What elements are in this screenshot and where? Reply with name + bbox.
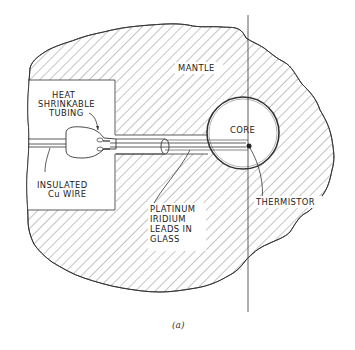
- label-platinum-1: PLATINUM: [150, 204, 195, 214]
- label-platinum-4: GLASS: [150, 234, 180, 244]
- label-mantle: MANTLE: [178, 63, 215, 73]
- label-platinum-2: IRIDIUM: [150, 214, 186, 224]
- label-insulated-2: Cu WIRE: [48, 189, 86, 199]
- label-core: CORE: [230, 125, 255, 135]
- figure-caption: (a): [172, 320, 185, 330]
- label-thermistor: THERMISTOR: [255, 197, 315, 207]
- diagram-canvas: MANTLE CORE HEAT SHRINKABLE TUBING INSUL…: [0, 0, 355, 350]
- label-heat-shrink-3: TUBING: [48, 108, 84, 118]
- label-platinum-3: LEADS IN: [150, 224, 192, 234]
